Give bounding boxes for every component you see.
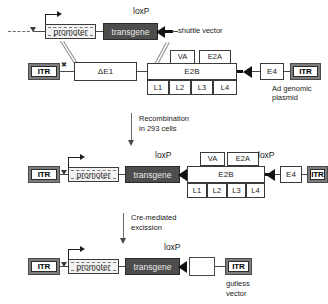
recombination-step-arrow-line bbox=[131, 113, 132, 141]
e2b-box: E2B bbox=[147, 63, 237, 80]
row2-e2b-box: E2B bbox=[187, 166, 265, 183]
connector-line bbox=[96, 31, 103, 32]
row2-e2b-label: E2B bbox=[218, 171, 233, 179]
e2a-label: E2A bbox=[208, 53, 222, 61]
row2-itr-left: ITR bbox=[28, 166, 60, 183]
connector-line bbox=[252, 71, 260, 72]
dashed-plasmid-backbone-icon bbox=[8, 31, 30, 32]
row2-e2a-label: E2A bbox=[236, 155, 250, 163]
recombination-step-line1: Recombination bbox=[139, 114, 189, 123]
va-label: VA bbox=[178, 53, 188, 61]
row3-itr-left-label: ITR bbox=[31, 261, 57, 272]
delta-e1-box: ΔE1 bbox=[74, 62, 137, 81]
row2-loxp-left-label: loxP bbox=[155, 150, 172, 161]
psi-packaging-signal-icon bbox=[61, 170, 67, 175]
delta-e1-label: ΔE1 bbox=[98, 68, 113, 76]
row2-itr-right: ITR bbox=[307, 166, 328, 183]
row3-transgene-box: transgene bbox=[125, 258, 180, 275]
cre-excision-step-arrow-line bbox=[123, 213, 124, 239]
row2-promoter-label: promoter bbox=[76, 170, 110, 180]
e4-label: E4 bbox=[267, 68, 277, 76]
connector-line bbox=[215, 266, 225, 267]
l3-box: L3 bbox=[191, 80, 213, 95]
row2-l2-box: L2 bbox=[207, 183, 227, 198]
row3-itr-right-label: ITR bbox=[228, 261, 249, 272]
loxp-site-icon-genome bbox=[243, 66, 252, 78]
e2a-box: E2A bbox=[199, 50, 231, 64]
cre-excision-step-arrow-head bbox=[120, 238, 126, 244]
row2-itr-right-label: ITR bbox=[310, 169, 325, 180]
l1-box: L1 bbox=[147, 80, 169, 95]
e4-box: E4 bbox=[260, 63, 284, 80]
row2-loxp-right-label: loxP bbox=[258, 150, 275, 161]
connector-line bbox=[137, 71, 147, 72]
cre-excision-step-line1: Cre-mediated bbox=[131, 213, 176, 222]
recombination-step-line2: in 293 cells bbox=[139, 124, 177, 133]
row2-l1-label: L1 bbox=[193, 187, 202, 195]
row2-transgene-label: transgene bbox=[134, 170, 172, 180]
l2-box: L2 bbox=[169, 80, 191, 95]
loxp-site-icon bbox=[156, 26, 165, 38]
loxp-label-shuttle: loxP bbox=[133, 6, 150, 17]
row2-itr-left-label: ITR bbox=[31, 169, 57, 180]
va-box: VA bbox=[170, 50, 195, 64]
shuttle-promoter-box: promoter bbox=[45, 24, 96, 39]
transcription-start-arrow-head bbox=[57, 11, 62, 17]
row2-promoter-box: promoter bbox=[68, 167, 119, 182]
row2-va-box: VA bbox=[200, 152, 225, 166]
gutless-vector-caption-line1: gutless bbox=[226, 279, 250, 288]
ad-genomic-itr-left-label: ITR bbox=[31, 66, 57, 77]
l2-label: L2 bbox=[176, 84, 185, 92]
ad-genomic-itr-right: ITR bbox=[290, 63, 321, 80]
shuttle-vector-caption: shuttle vector bbox=[178, 26, 223, 35]
row2-l4-label: L4 bbox=[251, 187, 260, 195]
l1-label: L1 bbox=[154, 84, 163, 92]
row3-loxp-icon bbox=[178, 261, 187, 273]
row3-stuffer-box bbox=[189, 257, 215, 276]
row2-loxp-left-icon bbox=[178, 169, 187, 181]
shuttle-promoter-label: promoter bbox=[53, 27, 87, 37]
row3-promoter-label: promoter bbox=[76, 262, 110, 272]
connector-line bbox=[33, 31, 45, 32]
row2-e4-box: E4 bbox=[280, 166, 302, 183]
row3-itr-left: ITR bbox=[28, 258, 60, 275]
row2-e2a-box: E2A bbox=[227, 152, 259, 166]
row2-loxp-right-icon bbox=[266, 169, 275, 181]
connector-line bbox=[60, 71, 74, 72]
row2-l2-label: L2 bbox=[213, 187, 222, 195]
row3-itr-right: ITR bbox=[225, 258, 252, 275]
row2-l3-box: L3 bbox=[227, 183, 246, 198]
ad-genomic-caption-line1: Ad genomic bbox=[272, 84, 312, 93]
e2b-label: E2B bbox=[184, 68, 199, 76]
row2-e4-label: E4 bbox=[286, 171, 296, 179]
figure-canvas: promoter transgene loxP shuttle vector ✖… bbox=[0, 0, 328, 304]
row2-va-label: VA bbox=[208, 155, 218, 163]
l4-label: L4 bbox=[221, 84, 230, 92]
shuttle-transgene-label: transgene bbox=[112, 27, 150, 37]
transcription-start-arrow-head bbox=[80, 246, 85, 252]
cre-excision-step-line2: excission bbox=[131, 223, 162, 232]
crossover-x-mark: ✖ bbox=[61, 61, 67, 69]
row2-l3-label: L3 bbox=[232, 187, 241, 195]
ad-genomic-caption-line2: plasmid bbox=[272, 93, 298, 102]
gutless-vector-caption-line2: vector bbox=[226, 289, 246, 298]
row2-l4-box: L4 bbox=[246, 183, 265, 198]
row3-transgene-label: transgene bbox=[134, 262, 172, 272]
recombination-step-arrow-head bbox=[128, 140, 134, 146]
ad-genomic-itr-left: ITR bbox=[28, 63, 60, 80]
ad-genomic-itr-right-label: ITR bbox=[293, 66, 318, 77]
row3-loxp-label: loxP bbox=[164, 242, 181, 253]
l4-box: L4 bbox=[213, 80, 237, 95]
shuttle-transgene-box: transgene bbox=[103, 23, 158, 40]
row3-promoter-box: promoter bbox=[68, 259, 119, 274]
row2-l1-box: L1 bbox=[187, 183, 207, 198]
transcription-start-arrow-head bbox=[80, 154, 85, 160]
psi-packaging-signal-icon bbox=[61, 262, 67, 267]
row2-transgene-box: transgene bbox=[125, 166, 180, 183]
l3-label: L3 bbox=[198, 84, 207, 92]
